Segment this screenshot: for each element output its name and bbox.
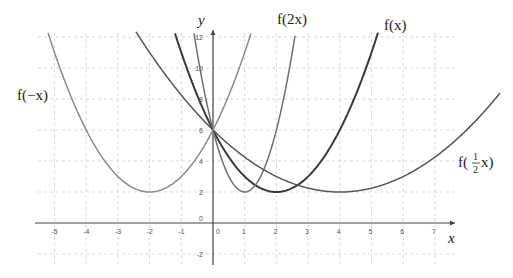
x-axis-label: x [447, 230, 455, 246]
label-f-half-x: f( 1 2 x) [458, 151, 494, 175]
svg-text:6: 6 [199, 127, 203, 134]
svg-text:6: 6 [400, 228, 404, 235]
svg-text:x): x) [481, 154, 494, 171]
svg-text:2: 2 [473, 164, 478, 175]
svg-text:f(: f( [458, 154, 468, 171]
label-f-x: f(x) [384, 17, 407, 34]
svg-text:7: 7 [432, 228, 436, 235]
svg-text:-2: -2 [147, 228, 153, 235]
svg-text:0: 0 [199, 215, 203, 222]
svg-text:-2: -2 [197, 251, 203, 258]
curve-f-1-2-x- [136, 32, 500, 192]
svg-text:4: 4 [199, 158, 203, 165]
svg-text:-3: -3 [115, 228, 121, 235]
svg-text:-5: -5 [52, 228, 58, 235]
label-f-2x: f(2x) [277, 11, 307, 28]
svg-text:5: 5 [369, 228, 373, 235]
label-f-neg-x: f(−x) [17, 87, 48, 104]
svg-text:0: 0 [216, 228, 220, 235]
curves [48, 32, 500, 192]
svg-text:2: 2 [273, 228, 277, 235]
svg-text:-1: -1 [178, 228, 184, 235]
svg-text:4: 4 [337, 228, 341, 235]
function-transformation-chart: -5-4-3-2-101234567-2024681012 x y f(−x) … [0, 0, 513, 278]
svg-text:2: 2 [199, 189, 203, 196]
svg-text:1: 1 [242, 228, 246, 235]
y-axis-label: y [196, 12, 205, 28]
svg-text:-4: -4 [83, 228, 89, 235]
svg-text:3: 3 [305, 228, 309, 235]
grid [38, 33, 455, 265]
svg-text:12: 12 [195, 34, 203, 41]
svg-text:1: 1 [473, 151, 478, 162]
